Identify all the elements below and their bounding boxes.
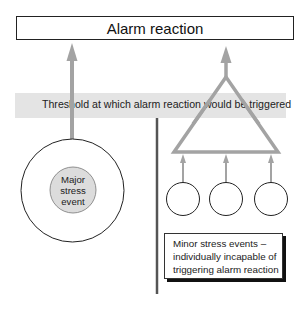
minor-event-arrow-1 bbox=[180, 154, 186, 183]
minor-event-circle-2 bbox=[210, 183, 243, 216]
minor-event-circle-1 bbox=[167, 183, 200, 216]
threshold-label: Threshold at which alarm reaction would … bbox=[42, 98, 291, 110]
callout-line-1: Minor stress events – bbox=[173, 237, 282, 250]
alarm-reaction-box: Alarm reaction bbox=[16, 16, 294, 40]
minor-event-circle-3 bbox=[255, 183, 288, 216]
major-event-line-1: Major bbox=[50, 174, 96, 185]
minor-stress-events-callout: Minor stress events – individually incap… bbox=[164, 233, 283, 279]
major-stress-event-label: Major stress event bbox=[50, 174, 96, 207]
minor-event-arrow-3 bbox=[268, 154, 274, 183]
callout-line-3: triggering alarm reaction bbox=[173, 263, 282, 276]
major-event-line-2: stress bbox=[50, 185, 96, 196]
major-event-line-3: event bbox=[50, 196, 96, 207]
minor-event-arrow-2 bbox=[223, 154, 229, 183]
combined-arrow bbox=[221, 46, 232, 78]
alarm-reaction-title: Alarm reaction bbox=[107, 20, 204, 37]
callout-line-2: individually incapable of bbox=[173, 250, 282, 263]
major-event-arrow bbox=[67, 43, 78, 139]
